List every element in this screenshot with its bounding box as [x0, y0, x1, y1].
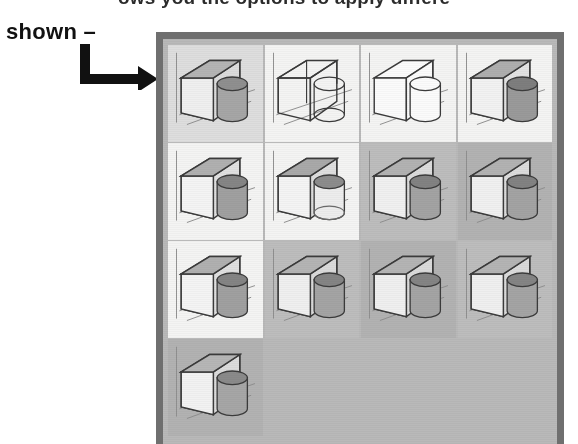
model-thumbnail-drawing — [265, 143, 360, 240]
model-thumbnail-drawing — [361, 45, 456, 142]
model-thumbnail-drawing — [168, 339, 263, 436]
gallery-inner-surface — [163, 39, 557, 444]
gallery-thumbnail-11[interactable] — [361, 241, 456, 338]
shown-annotation-label: shown – — [6, 19, 96, 45]
model-thumbnail-drawing — [168, 45, 263, 142]
gallery-thumbnail-4[interactable] — [458, 45, 553, 142]
gallery-thumbnail-12[interactable] — [458, 241, 553, 338]
gallery-thumbnail-3[interactable] — [361, 45, 456, 142]
gallery-thumbnail-6[interactable] — [265, 143, 360, 240]
model-thumbnail-drawing — [361, 143, 456, 240]
model-thumbnail-drawing — [458, 45, 553, 142]
model-thumbnail-drawing — [168, 241, 263, 338]
thumbnail-grid[interactable] — [168, 45, 552, 436]
model-thumbnail-drawing — [265, 45, 360, 142]
model-thumbnail-drawing — [361, 241, 456, 338]
clipped-caption-text: ows you the options to apply differe — [118, 0, 578, 9]
gallery-thumbnail-7[interactable] — [361, 143, 456, 240]
gallery-thumbnail-1[interactable] — [168, 45, 263, 142]
gallery-thumbnail-10[interactable] — [265, 241, 360, 338]
gallery-thumbnail-2[interactable] — [265, 45, 360, 142]
model-thumbnail-drawing — [458, 241, 553, 338]
gallery-thumbnail-9[interactable] — [168, 241, 263, 338]
gallery-thumbnail-13[interactable] — [168, 339, 263, 436]
gallery-thumbnail-8[interactable] — [458, 143, 553, 240]
model-thumbnail-drawing — [168, 143, 263, 240]
model-thumbnail-drawing — [265, 241, 360, 338]
model-thumbnail-drawing — [458, 143, 553, 240]
visual-style-gallery-panel[interactable] — [156, 32, 564, 444]
elbow-arrow-right-icon — [78, 44, 160, 90]
gallery-thumbnail-5[interactable] — [168, 143, 263, 240]
